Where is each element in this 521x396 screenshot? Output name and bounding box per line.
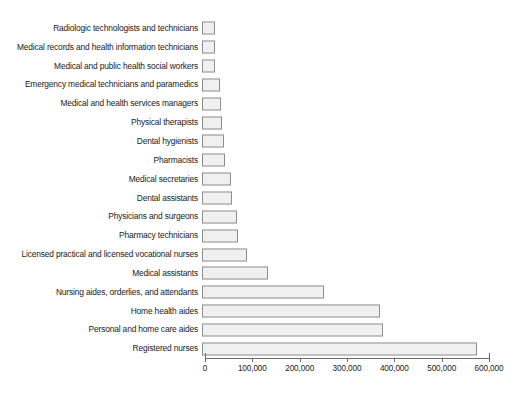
bar-row: Medical assistants	[0, 264, 521, 283]
x-axis-tick-label: 100,000	[238, 364, 267, 374]
bar	[202, 173, 231, 186]
bar-category-label: Radiologic technologists and technicians	[0, 24, 202, 33]
bar-category-label: Pharmacists	[0, 156, 202, 165]
bar-track	[202, 245, 521, 264]
bar	[202, 41, 215, 54]
x-axis-tick-mark	[489, 358, 490, 362]
bar	[202, 116, 222, 129]
bar	[202, 267, 268, 280]
bar-track	[202, 339, 521, 358]
bar-track	[202, 264, 521, 283]
bar-row: Licensed practical and licensed vocation…	[0, 245, 521, 264]
bar	[202, 60, 215, 73]
bar-row: Medical and health services managers	[0, 94, 521, 113]
bar-row: Dental hygienists	[0, 132, 521, 151]
bar	[202, 135, 224, 148]
bar-row: Nursing aides, orderlies, and attendants	[0, 283, 521, 302]
x-axis-tick-label: 300,000	[333, 364, 362, 374]
bar-category-label: Medical assistants	[0, 269, 202, 278]
bar	[202, 323, 383, 336]
bar-category-label: Dental assistants	[0, 194, 202, 203]
x-axis-tick-label: 600,000	[475, 364, 504, 374]
bar-track	[202, 113, 521, 132]
bar-row: Medical secretaries	[0, 170, 521, 189]
bar-row: Physicians and surgeons	[0, 207, 521, 226]
x-axis-tick-mark	[252, 358, 253, 362]
bar-track	[202, 132, 521, 151]
bar-category-label: Emergency medical technicians and parame…	[0, 80, 202, 89]
bar-category-label: Physical therapists	[0, 118, 202, 127]
bar-category-label: Home health aides	[0, 307, 202, 316]
bar-row: Pharmacists	[0, 151, 521, 170]
bar-category-label: Nursing aides, orderlies, and attendants	[0, 288, 202, 297]
x-axis-tick-mark	[300, 358, 301, 362]
bar-category-label: Pharmacy technicians	[0, 231, 202, 240]
x-axis-tick-label: 400,000	[380, 364, 409, 374]
bar	[202, 229, 238, 242]
bar-track	[202, 19, 521, 38]
bar-row: Home health aides	[0, 302, 521, 321]
bar	[202, 210, 237, 223]
bar-track	[202, 302, 521, 321]
bar-category-label: Registered nurses	[0, 344, 202, 353]
horizontal-bar-chart: Radiologic technologists and technicians…	[0, 0, 521, 396]
bar	[202, 192, 232, 205]
bar-category-label: Medical records and health information t…	[0, 43, 202, 52]
bar-row: Medical records and health information t…	[0, 38, 521, 57]
bar	[202, 248, 247, 261]
x-axis-tick-mark	[394, 358, 395, 362]
bar-row: Radiologic technologists and technicians	[0, 19, 521, 38]
x-axis-tick-label: 200,000	[285, 364, 314, 374]
bar-category-label: Personal and home care aides	[0, 325, 202, 334]
bar	[202, 154, 225, 167]
x-axis-ticks: 0100,000200,000300,000400,000500,000600,…	[205, 358, 490, 378]
bar-track	[202, 226, 521, 245]
bar-track	[202, 207, 521, 226]
bar	[202, 22, 215, 35]
bar-row: Pharmacy technicians	[0, 226, 521, 245]
bar-row: Dental assistants	[0, 189, 521, 208]
x-axis-tick-mark	[205, 358, 206, 362]
x-axis-tick-label: 0	[203, 364, 207, 374]
x-axis-tick-mark	[442, 358, 443, 362]
bar-category-label: Medical and health services managers	[0, 99, 202, 108]
bar-track	[202, 76, 521, 95]
bar-track	[202, 170, 521, 189]
bar-track	[202, 38, 521, 57]
bar	[202, 342, 477, 355]
x-axis-tick-label: 500,000	[427, 364, 456, 374]
bar-row: Medical and public health social workers	[0, 57, 521, 76]
bar-track	[202, 57, 521, 76]
bar	[202, 305, 380, 318]
bar	[202, 78, 220, 91]
bar-row: Registered nurses	[0, 339, 521, 358]
x-axis-tick-mark	[347, 358, 348, 362]
bar-category-label: Medical and public health social workers	[0, 62, 202, 71]
bar-track	[202, 283, 521, 302]
bar-category-label: Dental hygienists	[0, 137, 202, 146]
bar-row: Emergency medical technicians and parame…	[0, 76, 521, 95]
bar-row: Personal and home care aides	[0, 321, 521, 340]
bar-track	[202, 151, 521, 170]
bar-category-label: Licensed practical and licensed vocation…	[0, 250, 202, 259]
bar-category-label: Physicians and surgeons	[0, 212, 202, 221]
chart-rows: Radiologic technologists and technicians…	[0, 19, 521, 358]
bar	[202, 97, 221, 110]
bar-track	[202, 94, 521, 113]
bar-category-label: Medical secretaries	[0, 175, 202, 184]
bar-track	[202, 189, 521, 208]
bar-row: Physical therapists	[0, 113, 521, 132]
bar	[202, 286, 324, 299]
bar-track	[202, 321, 521, 340]
